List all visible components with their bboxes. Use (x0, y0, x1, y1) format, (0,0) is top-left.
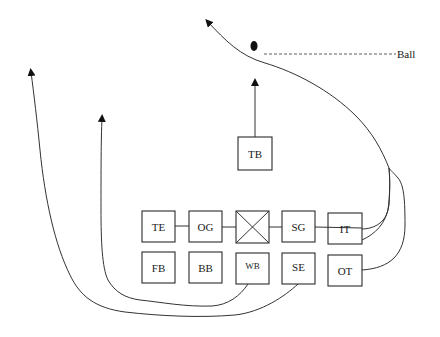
player-box-se: SE (282, 253, 315, 284)
player-box-tb: TB (238, 137, 272, 170)
route-it-upper (208, 22, 390, 229)
player-label-wb: WB (245, 261, 260, 271)
link-sg-it (315, 227, 362, 228)
player-box-wb: WB (236, 253, 269, 284)
player-label-bb: BB (198, 262, 213, 274)
play-diagram: Ball TE OG SG IT FB (0, 0, 440, 337)
player-label-og: OG (198, 221, 214, 233)
player-box-bb: BB (189, 252, 222, 283)
player-label-se: SE (292, 261, 305, 273)
player-box-it: IT (328, 213, 362, 244)
player-box-ot: OT (328, 255, 362, 286)
player-label-it: IT (340, 223, 351, 235)
player-box-sg: SG (282, 211, 315, 242)
player-label-tb: TB (248, 148, 262, 160)
player-box-te: TE (142, 211, 175, 242)
player-label-fb: FB (152, 262, 165, 274)
player-label-te: TE (152, 221, 166, 233)
player-label-ot: OT (338, 265, 353, 277)
player-box-fb: FB (142, 252, 175, 283)
player-box-center (236, 211, 269, 243)
ball-label: Ball (397, 48, 415, 60)
ball-marker: Ball (251, 41, 416, 60)
ball-icon (251, 41, 258, 51)
player-label-sg: SG (291, 221, 305, 233)
player-box-og: OG (189, 211, 222, 242)
